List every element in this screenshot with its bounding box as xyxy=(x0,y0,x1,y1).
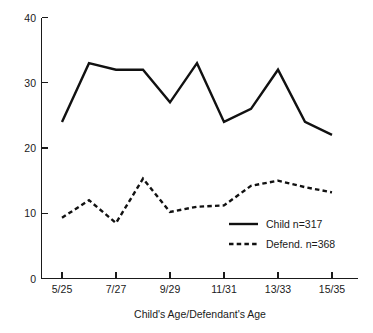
x-tick-label-7-27: 7/27 xyxy=(106,283,127,295)
chart-canvas: 40 30 20 10 0 5/25 7/27 9/29 11/31 13/33… xyxy=(0,0,373,333)
y-tick-label-10: 10 xyxy=(24,207,36,219)
x-axis-title: Child's Age/Defendant's Age xyxy=(134,308,266,320)
y-tick-label-30: 30 xyxy=(24,77,36,89)
x-tick-label-15-35: 15/35 xyxy=(319,283,345,295)
x-tick-label-5-25: 5/25 xyxy=(52,283,73,295)
x-tick-label-11-31: 11/31 xyxy=(211,283,237,295)
legend: Child n=317 Defend. n=368 xyxy=(229,218,335,250)
legend-label-child: Child n=317 xyxy=(266,218,322,230)
series-line-child xyxy=(62,63,332,135)
y-tick-label-0: 0 xyxy=(30,273,36,285)
line-chart: 40 30 20 10 0 5/25 7/27 9/29 11/31 13/33… xyxy=(0,0,373,333)
y-tick-label-20: 20 xyxy=(24,142,36,154)
legend-label-defendant: Defend. n=368 xyxy=(266,238,335,250)
x-tick-label-13-33: 13/33 xyxy=(265,283,291,295)
y-tick-label-40: 40 xyxy=(24,12,36,24)
x-tick-label-9-29: 9/29 xyxy=(160,283,181,295)
series-line-defendant xyxy=(62,179,332,223)
